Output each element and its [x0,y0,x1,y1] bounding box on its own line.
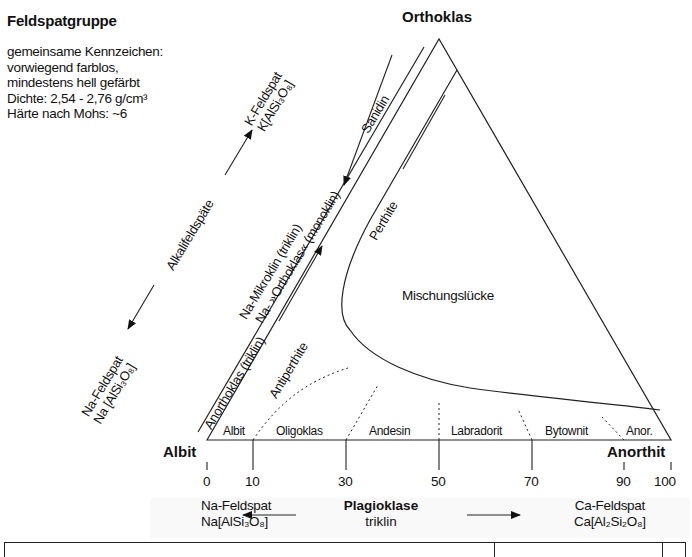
arrow-down-na-feldspat [128,285,154,329]
orthoklas-vertex-label: Orthoklas [402,8,472,25]
boundary-bytownit-anorthit [602,417,624,440]
plagioklase-subtitle: triklin [326,514,436,530]
tick-label-50: 50 [431,474,445,489]
albit-vertex-label: Albit [163,443,196,460]
field-oligoklas: Oligoklas [276,424,323,438]
field-andesin: Andesin [369,424,410,438]
tick-label-100: 100 [654,474,676,489]
na-feldspat-plagio-label: Na-Feldspat Na[AlSi₃O₈] [201,498,271,530]
tick-label-30: 30 [338,474,352,489]
tick-label-10: 10 [245,474,259,489]
ca-feldspat-label: Ca-Feldspat Ca[Al₂Si₂O₈] [574,498,646,530]
na-feldspat-plagio-name: Na-Feldspat [201,498,271,514]
mischungsluecke-label: Mischungslücke [402,288,494,303]
plagioklase-center-label: Plagioklase triklin [326,498,436,530]
field-labradorit: Labradorit [451,424,502,438]
solvus-curve [350,330,660,410]
arrow-up-k-feldspat [225,130,252,175]
perthite-tick [403,95,445,169]
field-albit: Albit [223,424,245,438]
na-feldspat-plagio-formula: Na[AlSi₃O₈] [201,514,271,530]
ca-feldspat-name: Ca-Feldspat [574,498,646,514]
field-bytownit: Bytownit [545,424,588,438]
bottom-table-border [4,542,686,557]
plagioklase-title: Plagioklase [326,498,436,514]
tick-label-70: 70 [524,474,538,489]
tick-label-90: 90 [616,474,630,489]
tick-label-0: 0 [203,474,210,489]
table-divider [494,543,495,557]
boundary-labradorit-bytownit [518,409,532,440]
field-anorthit: Anor. [626,424,653,438]
ca-feldspat-formula: Ca[Al₂Si₂O₈] [574,514,646,530]
anorthit-vertex-label: Anorthit [607,443,665,460]
table-divider [662,543,663,557]
